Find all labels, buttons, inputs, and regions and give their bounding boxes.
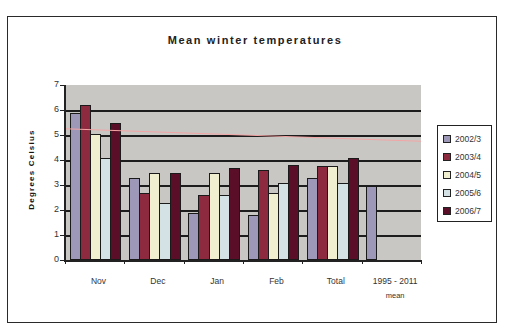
bar-2006-7 [229,168,240,261]
x-tick-mark [65,260,66,264]
bar-2006-7 [170,173,181,261]
y-tick-label: 1 [49,229,59,239]
legend-item: 2003/4 [443,150,481,164]
legend-label: 2004/5 [455,170,481,180]
x-tick-label: Jan [188,274,247,288]
y-tick-mark [60,210,65,211]
legend-label: 2002/3 [455,134,481,144]
bar-2002-3 [366,186,377,260]
y-tick-mark [60,85,65,86]
legend-swatch-icon [443,171,451,179]
legend-label: 2005/6 [455,188,481,198]
legend-label: 2003/4 [455,152,481,162]
legend-swatch-icon [443,189,451,197]
x-tick-mark [243,260,244,264]
y-tick-label: 3 [49,179,59,189]
x-tick-label: 1995 - 2011mean [366,274,425,303]
legend-item: 2002/3 [443,132,481,146]
y-tick-mark [60,160,65,161]
y-tick-label: 7 [49,79,59,89]
legend-item: 2005/6 [443,186,481,200]
y-tick-label: 5 [49,129,59,139]
legend-swatch-icon [443,153,451,161]
x-tick-mark [302,260,303,264]
legend-label: 2006/7 [455,206,481,216]
legend: 2002/32003/42004/52005/62006/7 [437,125,492,222]
x-tick-label: Dec [128,274,187,288]
y-tick-mark [60,235,65,236]
x-tick-label: Nov [69,274,128,288]
bar-2006-7 [110,123,121,261]
bar-2006-7 [348,158,359,261]
x-tick-mark [184,260,185,264]
plot-area [65,85,421,260]
y-tick-mark [60,110,65,111]
x-tick-mark [362,260,363,264]
y-tick-label: 0 [49,254,59,264]
x-tick-label: Feb [247,274,306,288]
x-tick-mark [421,260,422,264]
chart-title: Mean winter temperatures [0,34,510,46]
y-tick-label: 4 [49,154,59,164]
y-tick-mark [60,135,65,136]
legend-swatch-icon [443,207,451,215]
legend-item: 2006/7 [443,204,481,218]
y-tick-label: 6 [49,104,59,114]
y-tick-label: 2 [49,204,59,214]
y-axis-label: Degrees Celsius [27,125,36,215]
x-tick-mark [124,260,125,264]
x-tick-label: Total [306,274,365,288]
legend-item: 2004/5 [443,168,481,182]
y-tick-mark [60,185,65,186]
bar-2006-7 [288,165,299,260]
legend-swatch-icon [443,135,451,143]
gridline [65,110,421,112]
